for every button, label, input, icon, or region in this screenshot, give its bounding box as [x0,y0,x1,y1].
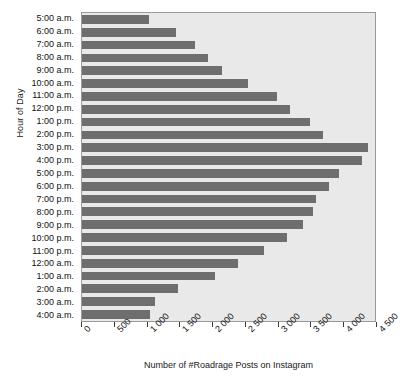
y-axis-tick-label: 2:00 a.m. [0,283,78,296]
y-axis-tick-label: 7:00 p.m. [0,193,78,206]
bar-row [82,39,375,52]
bar-row [82,193,375,206]
bar [82,220,303,229]
bar-series [82,13,375,321]
bar-row [82,218,375,231]
plot-area [81,12,376,322]
bar [82,28,176,37]
x-axis-title: Number of #Roadrage Posts on Instagram [81,360,376,370]
bar-row [82,257,375,270]
y-axis-tick-label: 1:00 p.m. [0,115,78,128]
bar [82,79,248,88]
bar-row [82,141,375,154]
bar-row [82,180,375,193]
y-axis-tick-label: 4:00 p.m. [0,154,78,167]
bar [82,182,329,191]
bar-row [82,270,375,283]
y-axis-tick-label: 8:00 a.m. [0,51,78,64]
y-axis-tick-label: 5:00 a.m. [0,12,78,25]
bar [82,92,277,101]
y-axis-tick-label: 10:00 p.m. [0,232,78,245]
bar-row [82,13,375,26]
bar-row [82,116,375,129]
bar [82,195,316,204]
y-axis-tick-label: 3:00 p.m. [0,141,78,154]
bar [82,105,290,114]
bar [82,246,264,255]
bar [82,66,222,75]
y-axis-tick-label: 12:00 p.m. [0,102,78,115]
x-axis-tick-labels: 05001 0001 5002 0002 5003 0003 5004 0004… [81,327,376,359]
y-axis-tick-label: 11:00 a.m. [0,90,78,103]
y-axis-tick-label: 12:00 a.m. [0,258,78,271]
y-axis-tick-label: 8:00 p.m. [0,206,78,219]
bar-row [82,282,375,295]
y-axis-tick-label: 11:00 p.m. [0,245,78,258]
bar [82,54,208,63]
y-axis-tick-label: 7:00 a.m. [0,38,78,51]
y-axis-tick-label: 4:00 a.m. [0,309,78,322]
bar [82,272,215,281]
bar [82,259,238,268]
bar [82,41,195,50]
y-axis-tick-labels: 5:00 a.m.6:00 a.m.7:00 a.m.8:00 a.m.9:00… [0,12,78,322]
y-axis-tick-label: 3:00 a.m. [0,296,78,309]
bar [82,143,368,152]
bar-row [82,26,375,39]
x-axis-tick-label: 4 500 [377,311,400,334]
bar-row [82,154,375,167]
bar-row [82,103,375,116]
bar [82,131,323,140]
bar-row [82,295,375,308]
bar [82,207,313,216]
bar-row [82,231,375,244]
y-axis-tick-label: 6:00 a.m. [0,25,78,38]
bar [82,118,310,127]
bar [82,310,150,319]
bar-row [82,205,375,218]
bar [82,284,178,293]
bar-row [82,51,375,64]
y-axis-tick-label: 9:00 p.m. [0,219,78,232]
y-axis-tick-label: 6:00 p.m. [0,180,78,193]
bar [82,15,149,24]
y-axis-tick-label: 10:00 a.m. [0,77,78,90]
bar [82,156,362,165]
bar-row [82,90,375,103]
bar-row [82,128,375,141]
bar [82,233,287,242]
bar-row [82,244,375,257]
bar [82,297,155,306]
bar-row [82,77,375,90]
y-axis-tick-label: 1:00 a.m. [0,270,78,283]
bar [82,169,339,178]
bar-row [82,167,375,180]
y-axis-tick-label: 2:00 p.m. [0,128,78,141]
y-axis-tick-label: 5:00 p.m. [0,167,78,180]
bar-row [82,64,375,77]
y-axis-tick-label: 9:00 a.m. [0,64,78,77]
